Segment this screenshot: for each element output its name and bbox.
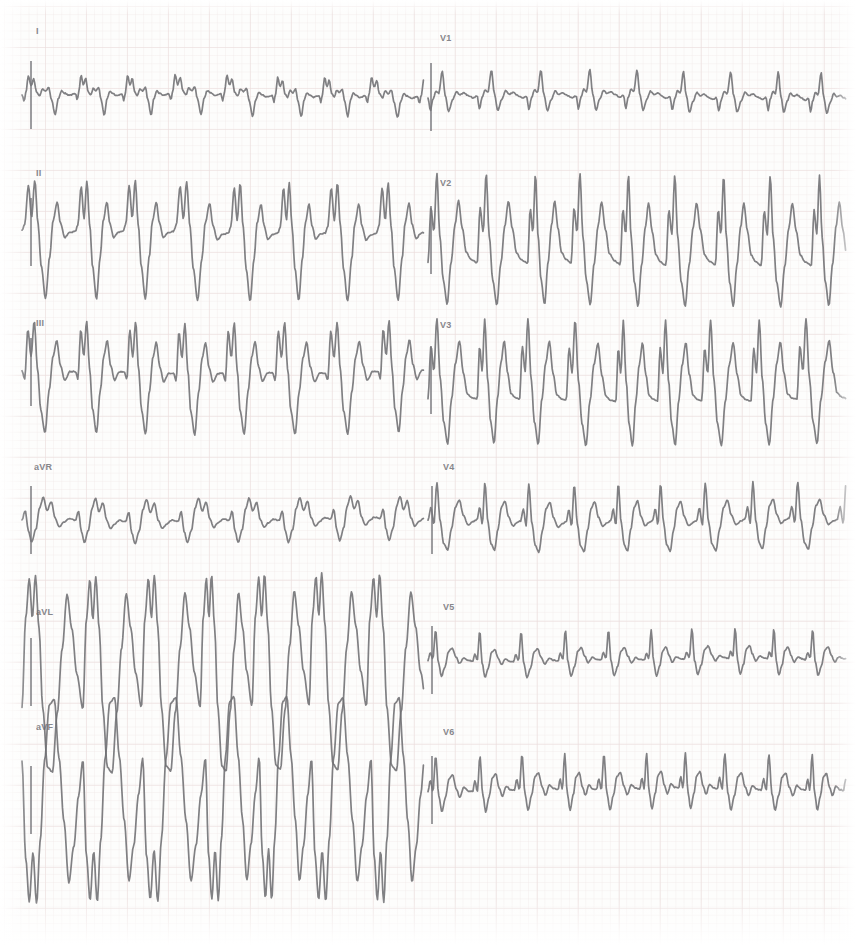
- calibration-mark-lead-v6: [431, 756, 433, 824]
- ecg-trace-lead-v6: [428, 753, 846, 812]
- ecg-trace-lead-iii: [22, 321, 423, 435]
- lead-label-lead-iii: III: [36, 318, 44, 328]
- calibration-mark-lead-avl: [30, 638, 32, 706]
- lead-label-lead-v4: V4: [443, 462, 454, 472]
- lead-label-lead-v6: V6: [443, 727, 454, 737]
- lead-label-lead-i: I: [36, 26, 39, 36]
- ecg-trace-lead-v2: [428, 174, 846, 307]
- ecg-trace-lead-avf: [22, 697, 423, 903]
- ecg-trace-lead-v4: [428, 482, 846, 553]
- ecg-trace-lead-v5: [428, 629, 846, 678]
- calibration-mark-lead-iii: [30, 338, 32, 406]
- ecg-trace-lead-avr: [22, 496, 423, 544]
- ecg-trace-lead-v3: [428, 319, 846, 446]
- lead-label-lead-ii: II: [36, 168, 41, 178]
- calibration-mark-lead-v3: [430, 346, 432, 414]
- calibration-mark-lead-avr: [30, 486, 32, 554]
- calibration-mark-lead-v4: [431, 486, 433, 554]
- lead-label-lead-v5: V5: [443, 602, 454, 612]
- lead-label-lead-v1: V1: [440, 33, 451, 43]
- calibration-mark-lead-i: [30, 61, 32, 129]
- ecg-trace-layer: [0, 0, 856, 945]
- lead-label-lead-avr: aVR: [34, 462, 52, 472]
- calibration-mark-lead-v2: [430, 206, 432, 274]
- lead-label-lead-v2: V2: [440, 178, 451, 188]
- ecg-trace-lead-v1: [428, 70, 846, 114]
- lead-label-lead-avl: aVL: [36, 607, 53, 617]
- ecg-trace-lead-i: [22, 75, 423, 117]
- ecg-chart-paper: IIIIIIaVRaVLaVFV1V2V3V4V5V6: [0, 0, 856, 945]
- lead-label-lead-v3: V3: [440, 320, 451, 330]
- lead-label-lead-avf: aVF: [36, 722, 53, 732]
- calibration-mark-lead-v1: [430, 63, 432, 131]
- ecg-trace-lead-avl: [22, 573, 423, 773]
- calibration-mark-lead-ii: [30, 198, 32, 266]
- calibration-mark-lead-v5: [431, 626, 433, 694]
- calibration-mark-lead-avf: [30, 766, 32, 834]
- ecg-trace-lead-ii: [22, 181, 423, 301]
